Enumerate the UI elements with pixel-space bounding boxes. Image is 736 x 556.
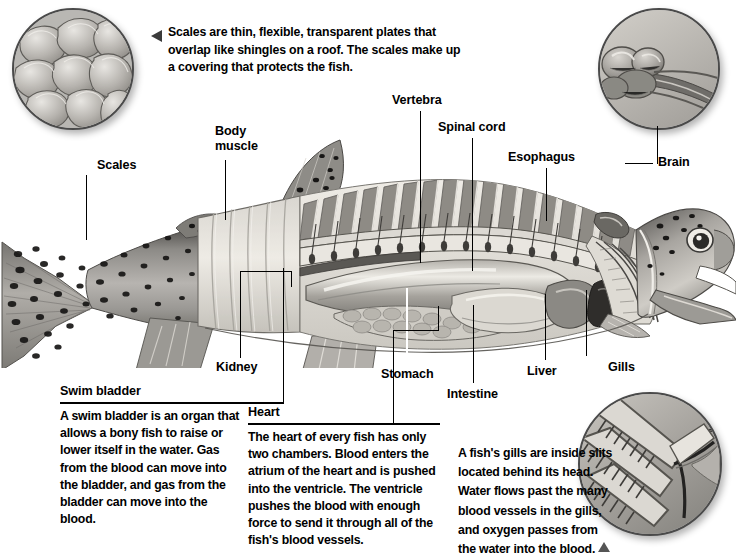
label-vertebra: Vertebra: [392, 93, 442, 108]
gills-note-text: A fish's gills are inside slits located …: [458, 446, 612, 556]
triangle-left-icon: [151, 30, 162, 42]
label-kidney: Kidney: [216, 360, 257, 375]
heart-heading: Heart: [248, 405, 438, 419]
leader-spinal-cord: [472, 138, 473, 271]
diagram-canvas: Scales are thin, flexible, transparent p…: [0, 0, 736, 556]
leader-heart-tip: [438, 306, 439, 331]
leader-gills: [586, 290, 587, 356]
heart-body: The heart of every fish has only two cha…: [248, 429, 444, 549]
leader-heart-v: [393, 330, 394, 424]
leader-intestine: [473, 305, 474, 383]
leader-brain-h: [625, 163, 653, 164]
leader-body-muscle: [225, 160, 226, 220]
leader-swim-bladder-v: [283, 268, 284, 404]
fish-head: [636, 209, 736, 324]
heart-rule: [248, 423, 440, 425]
caudal-fin: [2, 242, 96, 368]
leader-stomach: [406, 288, 408, 363]
label-spinal-cord: Spinal cord: [438, 120, 505, 135]
leader-vertebra: [420, 111, 421, 263]
fish-illustration: [0, 118, 736, 368]
swim-bladder-heading: Swim bladder: [60, 384, 240, 398]
label-scales: Scales: [97, 158, 136, 173]
label-stomach: Stomach: [381, 367, 434, 382]
triangle-up-icon: [598, 542, 610, 552]
leader-brain-v: [657, 126, 658, 164]
swim-bladder-block: Swim bladder: [60, 384, 240, 398]
leader-scales: [86, 175, 87, 240]
leader-heart-h: [393, 330, 439, 331]
fish-eye: [687, 228, 713, 252]
brain-inset: [598, 8, 720, 130]
leader-liver: [545, 294, 546, 360]
body-muscle-section: [198, 196, 300, 333]
label-body-muscle: Body muscle: [215, 124, 258, 153]
fish-body-posterior: [86, 226, 205, 330]
label-liver: Liver: [527, 364, 557, 379]
scales-callout-text: Scales are thin, flexible, transparent p…: [168, 24, 468, 77]
swim-bladder-rule: [60, 402, 284, 404]
gills-note-block: A fish's gills are inside slits located …: [458, 443, 616, 556]
leader-esophagus: [546, 168, 547, 221]
swim-bladder-body: A swim bladder is an organ that allows a…: [60, 408, 246, 528]
scales-inset: [12, 8, 134, 130]
label-intestine: Intestine: [447, 387, 498, 402]
leader-kidney-v: [240, 272, 241, 358]
heart-block: Heart: [248, 405, 438, 419]
label-esophagus: Esophagus: [508, 150, 575, 165]
label-gills: Gills: [608, 360, 635, 375]
label-brain: Brain: [658, 155, 690, 170]
leader-kidney-tip: [291, 271, 292, 287]
